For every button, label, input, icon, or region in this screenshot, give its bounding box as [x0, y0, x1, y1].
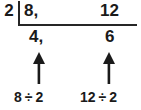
- up-arrow-icon: [31, 52, 47, 84]
- dividend-right-term: 12: [100, 0, 140, 22]
- division-bracket-vertical-rule: [18, 1, 20, 25]
- right-division-expression: 12÷2: [80, 86, 117, 108]
- left-expression-operand-a: 8: [14, 86, 22, 108]
- quotient-right-term: 6: [105, 26, 135, 48]
- division-diagram: 2 8, 12 4, 6 8÷2 12÷2: [0, 0, 141, 110]
- up-arrow-icon: [101, 52, 117, 84]
- right-expression-operand-a: 12: [80, 86, 96, 108]
- dividend-left-term: 8,: [24, 0, 54, 22]
- quotient-left-term: 4,: [29, 26, 59, 48]
- divide-icon: ÷: [96, 86, 110, 108]
- divisor-value: 2: [2, 0, 16, 21]
- right-expression-operand-b: 2: [109, 86, 117, 108]
- divide-icon: ÷: [22, 86, 36, 108]
- left-expression-operand-b: 2: [35, 86, 43, 108]
- left-division-expression: 8÷2: [14, 86, 43, 108]
